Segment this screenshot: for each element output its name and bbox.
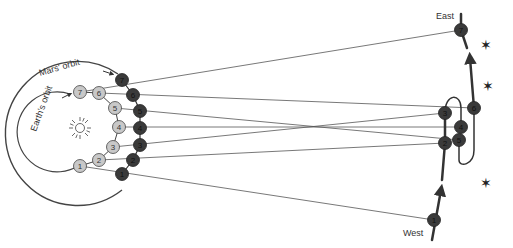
svg-text:3: 3 xyxy=(111,143,116,152)
svg-text:2: 2 xyxy=(97,156,102,165)
svg-text:6: 6 xyxy=(472,104,477,113)
west-label: West xyxy=(403,228,424,238)
earth-position-2: 2 xyxy=(93,154,106,167)
svg-text:5: 5 xyxy=(113,104,118,113)
retrograde-motion-diagram: Mars' orbit Earth's orbit 1 2 3 xyxy=(0,0,513,248)
earth-orbit-label: Earth's orbit xyxy=(28,84,54,133)
svg-text:3: 3 xyxy=(138,141,143,150)
svg-text:2: 2 xyxy=(131,156,136,165)
svg-text:4: 4 xyxy=(459,123,464,132)
mars-position-2: 2 xyxy=(127,154,140,167)
earth-position-1: 1 xyxy=(74,160,87,173)
sky-positions: 1 2 3 4 5 6 7 xyxy=(428,24,481,227)
earth-orbit-arrow xyxy=(62,94,70,98)
mars-orbit-arrow xyxy=(103,71,112,74)
svg-text:5: 5 xyxy=(138,107,143,116)
svg-text:7: 7 xyxy=(78,88,83,97)
svg-text:1: 1 xyxy=(120,170,125,179)
star-icon: ✶ xyxy=(480,37,492,53)
east-label: East xyxy=(436,11,455,21)
mars-position-7: 7 xyxy=(116,74,129,87)
svg-text:3: 3 xyxy=(443,109,448,118)
mars-position-4: 4 xyxy=(134,122,147,135)
svg-text:6: 6 xyxy=(131,91,136,100)
svg-text:1: 1 xyxy=(78,162,83,171)
mars-position-6: 6 xyxy=(127,89,140,102)
svg-text:2: 2 xyxy=(443,139,448,148)
svg-text:7: 7 xyxy=(120,76,125,85)
earth-position-6: 6 xyxy=(93,87,106,100)
sky-position-5: 5 xyxy=(453,134,466,147)
sky-position-2: 2 xyxy=(439,137,452,150)
star-icon: ✶ xyxy=(482,78,494,94)
sky-position-6: 6 xyxy=(468,102,481,115)
sun-icon xyxy=(69,117,91,139)
svg-text:6: 6 xyxy=(97,89,102,98)
mars-position-1: 1 xyxy=(116,168,129,181)
sky-position-7: 7 xyxy=(455,24,468,37)
earth-position-5: 5 xyxy=(109,102,122,115)
earth-position-3: 3 xyxy=(107,141,120,154)
mars-position-5: 5 xyxy=(134,105,147,118)
mars-orbit-arc xyxy=(5,61,122,205)
svg-text:4: 4 xyxy=(117,123,122,132)
star-icon: ✶ xyxy=(480,175,492,191)
svg-text:4: 4 xyxy=(138,124,143,133)
earth-position-7: 7 xyxy=(74,86,87,99)
background-stars: ✶ ✶ ✶ xyxy=(480,37,494,191)
svg-text:5: 5 xyxy=(457,136,462,145)
svg-text:7: 7 xyxy=(459,26,464,35)
earth-position-4: 4 xyxy=(113,121,126,134)
mars-position-3: 3 xyxy=(134,139,147,152)
svg-text:1: 1 xyxy=(432,216,437,225)
sky-position-1: 1 xyxy=(428,214,441,227)
mars-orbit-label: Mars' orbit xyxy=(38,57,81,78)
sky-position-3: 3 xyxy=(439,107,452,120)
sky-position-4: 4 xyxy=(455,121,468,134)
